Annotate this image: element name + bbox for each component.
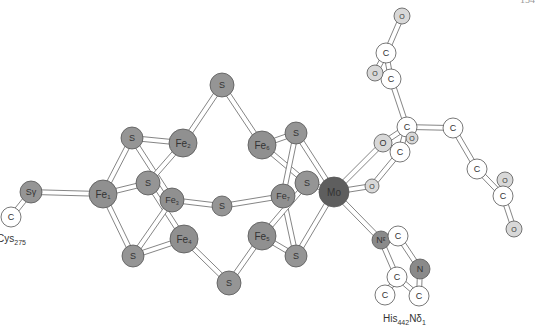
atom-o_top: O	[394, 8, 410, 24]
atom-c_h3: C	[375, 285, 395, 305]
atoms-layer: SγCFe1SFe2SFe6SSFe3SFe7SMoFe4Fe5SSSOOCOC…	[1, 8, 522, 306]
atom-s_bl: S	[122, 245, 144, 267]
his-label-main: His	[383, 313, 397, 324]
atom-c_r3: C	[493, 186, 513, 206]
atom-fe1: Fe1	[89, 180, 117, 208]
atom-c_hc2: C	[381, 69, 401, 89]
svg-text:S: S	[226, 278, 232, 288]
svg-text:O: O	[369, 183, 375, 190]
svg-text:C: C	[474, 164, 481, 174]
atom-o_r1: O	[497, 172, 513, 188]
cys-label-main: Cys	[0, 233, 14, 244]
his-label-tail: Nδ	[409, 313, 422, 324]
atom-s_cr: S	[295, 171, 319, 195]
svg-text:C: C	[394, 272, 401, 282]
atom-c_hc_b: C	[390, 142, 410, 162]
atom-s_bot: S	[217, 271, 241, 295]
svg-text:C: C	[500, 191, 507, 201]
his-label-sub: 442	[397, 319, 409, 326]
svg-text:O: O	[502, 177, 508, 184]
svg-text:O: O	[379, 138, 386, 148]
atom-c_h4: C	[409, 286, 429, 306]
his-label-tail-sub: 1	[422, 319, 426, 326]
svg-text:C: C	[8, 212, 15, 222]
atom-n_d: N	[410, 259, 430, 279]
svg-text:O: O	[399, 13, 405, 20]
svg-text:O: O	[372, 70, 378, 77]
svg-text:S: S	[130, 251, 136, 261]
atom-sg: Sγ	[20, 181, 42, 203]
atom-o_r2: O	[506, 221, 522, 237]
svg-text:S: S	[219, 201, 225, 211]
atom-c_hc1: C	[376, 43, 396, 63]
atom-fe6: Fe6	[248, 131, 276, 159]
femoco-structure-diagram: SγCFe1SFe2SFe6SSFe3SFe7SMoFe4Fe5SSSOOCOC…	[0, 0, 535, 329]
svg-text:S: S	[293, 251, 299, 261]
atom-n_e: Nᵋ	[372, 231, 390, 249]
atom-fe7: Fe7	[271, 184, 295, 208]
svg-text:S: S	[304, 178, 310, 188]
svg-text:C: C	[388, 74, 395, 84]
atom-c_h1: C	[388, 226, 408, 246]
cys-label-sub: 275	[14, 239, 26, 246]
svg-text:C: C	[382, 290, 389, 300]
svg-text:C: C	[395, 231, 402, 241]
atom-s_mid: S	[212, 196, 232, 216]
svg-text:S: S	[293, 128, 299, 138]
svg-text:Sγ: Sγ	[26, 187, 37, 197]
svg-text:O: O	[409, 135, 415, 142]
atom-c_h2: C	[387, 267, 407, 287]
svg-text:Nᵋ: Nᵋ	[376, 235, 385, 245]
cys275-label: Cys275	[0, 233, 26, 246]
svg-text:N: N	[417, 264, 424, 274]
svg-text:C: C	[397, 147, 404, 157]
his442-label: His442Nδ1	[383, 313, 426, 326]
svg-text:C: C	[450, 123, 457, 133]
atom-s_tr: S	[285, 122, 307, 144]
svg-text:S: S	[129, 133, 135, 143]
atom-fe3: Fe3	[160, 188, 184, 212]
atom-fe2: Fe2	[169, 129, 197, 157]
atom-s_top: S	[210, 73, 234, 97]
atom-o2: O	[365, 179, 379, 193]
atom-o_left: O	[367, 65, 383, 81]
atom-o_small: O	[406, 132, 418, 144]
svg-text:C: C	[416, 291, 423, 301]
atom-c_cys: C	[1, 207, 21, 227]
svg-text:Mo: Mo	[327, 187, 341, 198]
atom-s_br: S	[285, 245, 307, 267]
svg-text:S: S	[145, 178, 151, 188]
atom-o1: O	[374, 134, 392, 152]
svg-text:S: S	[219, 80, 225, 90]
svg-text:C: C	[404, 122, 411, 132]
atom-s_tl: S	[121, 127, 143, 149]
svg-text:O: O	[511, 226, 517, 233]
atom-fe4: Fe4	[170, 225, 198, 253]
atom-s_cl: S	[136, 171, 160, 195]
atom-c_r2: C	[467, 159, 487, 179]
svg-text:C: C	[383, 48, 390, 58]
atom-c_r1: C	[443, 118, 463, 138]
atom-fe5: Fe5	[248, 222, 276, 250]
atom-mo: Mo	[319, 177, 349, 207]
